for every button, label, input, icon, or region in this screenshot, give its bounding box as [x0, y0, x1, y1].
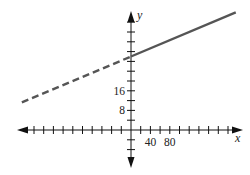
x-tick-label: 40: [145, 136, 157, 148]
x-axis-name: x: [234, 131, 241, 145]
y-axis: 816 y: [114, 8, 144, 168]
x-axis-tick-labels: 4080: [145, 136, 176, 148]
y-axis-up-arrow-icon: [128, 11, 135, 22]
y-axis-down-arrow-icon: [128, 157, 135, 168]
x-tick-label: 80: [164, 136, 176, 148]
x-axis: 4080 x: [17, 126, 243, 148]
x-axis-left-arrow-icon: [17, 127, 28, 134]
line-chart: 4080 x 816 y: [0, 0, 250, 175]
solid-line-segment: [131, 12, 236, 56]
y-tick-label: 8: [119, 104, 125, 116]
y-axis-name: y: [136, 8, 143, 22]
data-series: [22, 12, 236, 102]
y-axis-tick-labels: 816: [114, 85, 126, 117]
y-tick-label: 16: [114, 85, 126, 97]
